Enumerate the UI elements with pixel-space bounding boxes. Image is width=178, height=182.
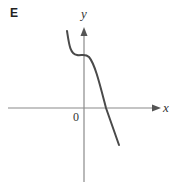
x-axis-arrow-icon [152,105,161,112]
graph-canvas [0,0,178,182]
function-curve [67,31,119,145]
y-axis-arrow-icon [81,27,88,36]
